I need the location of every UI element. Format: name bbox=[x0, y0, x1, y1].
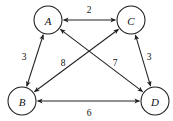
node-label-d: D bbox=[150, 96, 159, 108]
graph-node-c[interactable]: C bbox=[117, 6, 145, 34]
node-label-a: A bbox=[44, 15, 52, 27]
edge-weight-bc: 8 bbox=[61, 58, 66, 68]
graph-edge-bc bbox=[34, 29, 118, 92]
graph-node-a[interactable]: A bbox=[34, 6, 62, 34]
graph-node-d[interactable]: D bbox=[141, 87, 169, 115]
edge-weight-ab: 3 bbox=[22, 52, 27, 62]
graph-diagram: ACBD 233876 bbox=[0, 0, 173, 121]
graph-node-b[interactable]: B bbox=[8, 87, 36, 115]
node-label-c: C bbox=[127, 15, 135, 27]
node-label-b: B bbox=[19, 96, 26, 108]
graph-canvas: ACBD 233876 bbox=[0, 0, 173, 121]
nodes-layer: ACBD bbox=[8, 6, 169, 115]
edge-weight-ac: 2 bbox=[87, 5, 92, 15]
edge-weight-cd: 3 bbox=[147, 52, 152, 62]
edge-weight-bd: 6 bbox=[87, 108, 92, 118]
graph-edge-ab bbox=[27, 35, 44, 86]
edge-weight-ad: 7 bbox=[113, 58, 118, 68]
graph-edge-ad bbox=[60, 29, 142, 91]
